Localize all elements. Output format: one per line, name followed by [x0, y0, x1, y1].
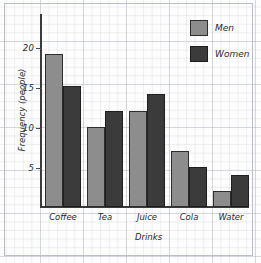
bar-juice-women: [147, 94, 165, 207]
bar-tea-women: [105, 111, 123, 208]
bar-juice-men: [129, 111, 147, 208]
bar-water-women: [231, 175, 249, 207]
bar-group-juice: [126, 22, 168, 207]
y-tick-label-20: 20: [12, 43, 34, 53]
x-tick-label-tea: Tea: [84, 212, 126, 222]
plot-area: 20 15 10 5 Frequency (people): [0, 0, 261, 263]
x-tick-label-water: Water: [210, 212, 252, 222]
x-axis-title: Drinks: [0, 232, 261, 242]
bar-coffee-men: [45, 54, 63, 207]
bar-chart: 20 15 10 5 Frequency (people): [0, 0, 261, 263]
x-tick-label-coffee: Coffee: [42, 212, 84, 222]
legend-swatch-women-icon: [190, 46, 208, 62]
legend-swatch-men-icon: [190, 20, 208, 36]
bar-group-coffee: [42, 22, 84, 207]
legend-label-men: Men: [215, 23, 234, 33]
bar-tea-men: [87, 127, 105, 207]
legend: Men Women: [190, 18, 258, 70]
x-tick-label-juice: Juice: [126, 212, 168, 222]
legend-label-women: Women: [215, 49, 249, 59]
bar-group-tea: [84, 22, 126, 207]
y-axis-title: Frequency (people): [17, 60, 27, 160]
y-tick-label-5: 5: [12, 163, 34, 173]
legend-item-men: Men: [190, 18, 258, 38]
bar-cola-men: [171, 151, 189, 207]
x-tick-label-cola: Cola: [168, 212, 210, 222]
bar-coffee-women: [63, 86, 81, 207]
bar-cola-women: [189, 167, 207, 207]
bar-water-men: [213, 191, 231, 207]
legend-item-women: Women: [190, 44, 258, 64]
